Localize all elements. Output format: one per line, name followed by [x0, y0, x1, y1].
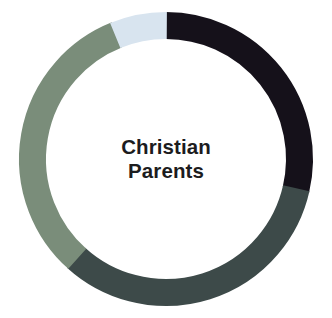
donut-center-label: Christian Parents: [121, 135, 211, 183]
donut-center-label-line-1: Christian: [121, 135, 211, 159]
donut-slice[interactable]: [32, 35, 116, 259]
donut-center-label-line-2: Parents: [121, 159, 211, 183]
donut-chart-figure: Christian Parents: [0, 0, 332, 318]
donut-slice[interactable]: [115, 26, 167, 36]
donut-slice[interactable]: [76, 188, 296, 292]
